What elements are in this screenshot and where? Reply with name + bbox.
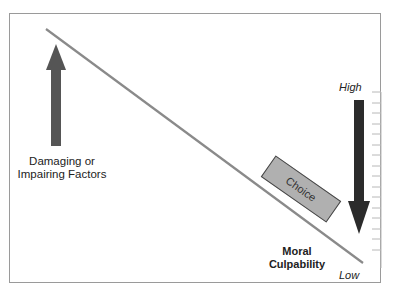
slope-line <box>46 29 363 263</box>
culpability-scale <box>372 92 381 268</box>
high-label: High <box>339 81 362 94</box>
moral-culpability-label: Moral Culpability <box>262 245 332 271</box>
down-arrow-icon <box>348 100 370 234</box>
up-arrow-icon <box>46 44 66 146</box>
diagram-canvas <box>0 0 393 292</box>
damaging-factors-label: Damaging or Impairing Factors <box>14 155 110 181</box>
low-label: Low <box>339 269 359 282</box>
